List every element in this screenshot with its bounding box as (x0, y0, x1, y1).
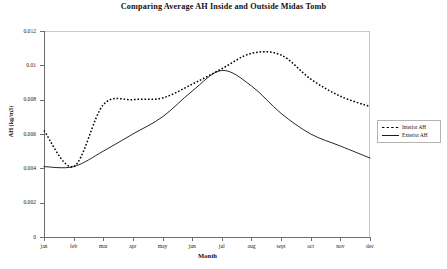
y-tick-label: 0.002 (0, 199, 36, 205)
x-tick (74, 237, 75, 241)
legend-label-exterior: Exterior AH (402, 131, 428, 139)
x-tick (340, 237, 341, 241)
x-tick (251, 237, 252, 241)
y-tick (40, 203, 44, 204)
x-tick-label: apr (118, 243, 148, 249)
x-tick-label: jul (207, 243, 237, 249)
y-tick-label: 0.008 (0, 96, 36, 102)
y-axis-label: AH (kg/m3) (7, 92, 14, 152)
plot-border-right (369, 31, 370, 237)
x-tick (370, 237, 371, 241)
x-tick (163, 237, 164, 241)
legend-solid-line-icon (381, 132, 400, 139)
x-tick (192, 237, 193, 241)
chart-legend: Interior AH Exterior AH (377, 120, 441, 143)
chart-container: Comparing Average AH Inside and Outside … (0, 0, 447, 269)
x-tick (103, 237, 104, 241)
x-tick (133, 237, 134, 241)
y-tick-label: 0.01 (0, 62, 36, 68)
y-tick-label: 0.012 (0, 28, 36, 34)
x-tick-label: oct (296, 243, 326, 249)
x-tick-label: jun (177, 243, 207, 249)
legend-dashed-line-icon (381, 124, 400, 131)
x-tick (311, 237, 312, 241)
x-tick-label: nov (325, 243, 355, 249)
legend-label-interior: Interior AH (402, 123, 426, 131)
x-tick-label: dec (355, 243, 385, 249)
x-tick-label: mar (88, 243, 118, 249)
y-axis-line (44, 31, 45, 237)
x-axis-label: Month (44, 252, 371, 259)
legend-item-exterior: Exterior AH (381, 131, 437, 139)
y-tick-label: 0.006 (0, 131, 36, 137)
x-tick-label: may (148, 243, 178, 249)
plot-area (44, 31, 370, 237)
y-tick-label: 0.004 (0, 165, 36, 171)
x-tick-label: sept (266, 243, 296, 249)
y-tick-label: 0 (0, 234, 36, 240)
plot-border-top (44, 31, 370, 32)
x-tick-label: feb (59, 243, 89, 249)
y-tick (40, 168, 44, 169)
y-tick (40, 65, 44, 66)
x-tick (281, 237, 282, 241)
chart-title: Comparing Average AH Inside and Outside … (0, 2, 447, 11)
y-tick (40, 31, 44, 32)
y-tick (40, 134, 44, 135)
x-axis-line (44, 237, 371, 238)
x-tick (44, 237, 45, 241)
y-tick (40, 100, 44, 101)
x-tick-label: aug (236, 243, 266, 249)
x-tick-label: jan (29, 243, 59, 249)
legend-item-interior: Interior AH (381, 123, 437, 131)
x-tick (222, 237, 223, 241)
